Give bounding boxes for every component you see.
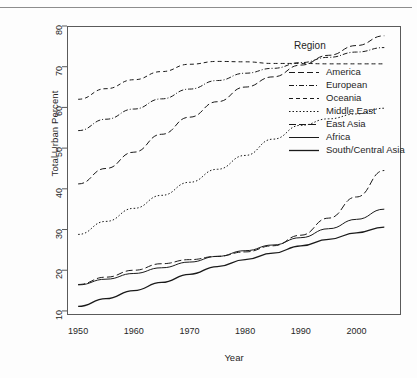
legend-item[interactable]: Africa <box>289 130 415 143</box>
legend-item-label: America <box>326 65 361 78</box>
y-tick-label: 70 <box>54 66 64 98</box>
y-tick-label: 20 <box>54 269 64 301</box>
y-tick-label: 60 <box>54 106 64 138</box>
legend-line-swatch <box>289 104 319 117</box>
x-tick-label: 1990 <box>281 326 321 336</box>
legend-title: Region <box>294 40 415 51</box>
legend-item[interactable]: Oceania <box>289 91 415 104</box>
x-tick-label: 1960 <box>114 326 154 336</box>
legend-line-swatch <box>289 143 319 156</box>
legend-item-label: European <box>326 78 367 91</box>
y-tick-label: 80 <box>54 25 64 57</box>
x-tick-label: 1970 <box>169 326 209 336</box>
legend-line-swatch <box>289 65 319 78</box>
series-line <box>78 171 384 285</box>
legend-line-swatch <box>289 91 319 104</box>
legend: Region AmericaEuropeanOceaniaMiddle East… <box>289 40 415 156</box>
legend-line-swatch <box>289 78 319 91</box>
legend-item[interactable]: America <box>289 65 415 78</box>
legend-item[interactable]: South/Central Asia <box>289 143 415 156</box>
legend-line-swatch <box>289 117 319 130</box>
y-tick-label: 40 <box>54 188 64 220</box>
legend-line-swatch <box>289 130 319 143</box>
legend-item-label: Middle East <box>326 104 376 117</box>
legend-item[interactable]: Middle East <box>289 104 415 117</box>
legend-item[interactable]: East Asia <box>289 117 415 130</box>
y-tick-label: 30 <box>54 229 64 261</box>
x-tick-label: 1950 <box>58 326 98 336</box>
y-tick-label: 50 <box>54 147 64 179</box>
legend-entries: AmericaEuropeanOceaniaMiddle EastEast As… <box>289 65 415 156</box>
line-chart-figure: Total Urban Percent Year 102030405060708… <box>0 0 417 378</box>
legend-item[interactable]: European <box>289 78 415 91</box>
series-line <box>78 209 384 285</box>
page-canvas: Total Urban Percent Year 102030405060708… <box>0 0 417 378</box>
legend-item-label: Oceania <box>326 91 361 104</box>
x-tick-label: 1980 <box>225 326 265 336</box>
x-tick-label: 2000 <box>336 326 376 336</box>
series-line <box>78 227 384 306</box>
legend-item-label: South/Central Asia <box>326 143 405 156</box>
legend-item-label: Africa <box>326 130 350 143</box>
legend-item-label: East Asia <box>326 117 366 130</box>
x-axis-title: Year <box>67 352 401 363</box>
